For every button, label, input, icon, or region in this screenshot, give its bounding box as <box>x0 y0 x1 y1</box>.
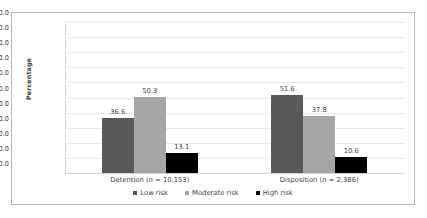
bar[interactable] <box>335 157 367 173</box>
chart-legend: Low riskModerate riskHigh risk <box>12 190 414 197</box>
legend-item[interactable]: Low risk <box>133 190 168 197</box>
gridline <box>65 173 404 174</box>
bars-layer: 36.650.313.151.637.810.6 <box>65 22 404 173</box>
y-axis-tick-label: 100.0 <box>0 9 9 17</box>
y-axis-tick-label: 40.0 <box>0 100 9 108</box>
y-axis-tick-labels: 0.010.020.030.040.050.060.070.080.090.01… <box>0 13 9 164</box>
chart-frame: Percentage 0.010.020.030.040.050.060.070… <box>11 12 415 205</box>
y-axis-tick-label: 10.0 <box>0 145 9 153</box>
legend-label: High risk <box>263 190 293 197</box>
bar-value-label: 37.8 <box>312 106 327 114</box>
y-axis-title: Percentage <box>25 49 33 109</box>
bar[interactable] <box>166 153 198 173</box>
bar[interactable] <box>303 116 335 173</box>
y-axis-tick-label: 60.0 <box>0 69 9 77</box>
y-axis-tick-label: 0.0 <box>0 160 9 168</box>
legend-item[interactable]: Moderate risk <box>185 190 239 197</box>
bar[interactable] <box>134 97 166 173</box>
category-axis-label: Detention (n = 10,153) <box>110 176 189 184</box>
bar-value-label: 51.6 <box>280 85 295 93</box>
bar[interactable] <box>271 95 303 173</box>
square-marker-icon <box>185 191 189 195</box>
plot-area: 36.650.313.151.637.810.6 <box>65 22 404 173</box>
legend-label: Low risk <box>140 190 168 197</box>
y-axis-tick-label: 70.0 <box>0 54 9 62</box>
bar[interactable] <box>102 118 134 173</box>
y-axis-tick-label: 50.0 <box>0 85 9 93</box>
y-axis-tick-label: 30.0 <box>0 115 9 123</box>
square-marker-icon <box>256 191 260 195</box>
category-axis-labels: Detention (n = 10,153)Disposition (n = 2… <box>65 176 404 188</box>
y-axis-tick-label: 20.0 <box>0 130 9 138</box>
legend-item[interactable]: High risk <box>256 190 293 197</box>
bar-value-label: 10.6 <box>344 147 359 155</box>
square-marker-icon <box>133 191 137 195</box>
y-axis-tick-label: 80.0 <box>0 39 9 47</box>
category-axis-label: Disposition (n = 2,386) <box>280 176 359 184</box>
bar-value-label: 13.1 <box>174 143 189 151</box>
chart-figure: Percentage 0.010.020.030.040.050.060.070… <box>0 0 427 218</box>
legend-label: Moderate risk <box>192 190 239 197</box>
bar-value-label: 36.6 <box>110 108 125 116</box>
bar-value-label: 50.3 <box>142 87 157 95</box>
y-axis-tick-label: 90.0 <box>0 24 9 32</box>
